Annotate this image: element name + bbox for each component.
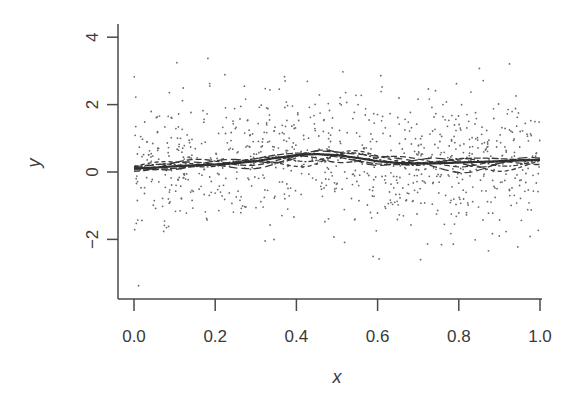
y-tick-label: 0	[83, 167, 102, 176]
y-tick-label: 2	[83, 100, 102, 109]
x-ticks: 0.00.20.40.60.81.0	[122, 299, 552, 346]
x-tick-label: 0.6	[366, 327, 390, 346]
scatter-points	[133, 58, 540, 287]
y-axis-title: y	[24, 158, 44, 170]
x-tick-label: 0.2	[203, 327, 227, 346]
x-axis-title: x	[332, 367, 343, 387]
chart: −2024 0.00.20.40.60.81.0 x y	[0, 0, 586, 407]
x-tick-label: 0.4	[285, 327, 309, 346]
x-tick-label: 0.8	[447, 327, 471, 346]
x-tick-label: 0.0	[122, 327, 146, 346]
y-ticks: −2024	[83, 32, 118, 249]
x-tick-label: 1.0	[528, 327, 552, 346]
y-tick-label: 4	[83, 32, 102, 41]
y-tick-label: −2	[83, 230, 102, 249]
